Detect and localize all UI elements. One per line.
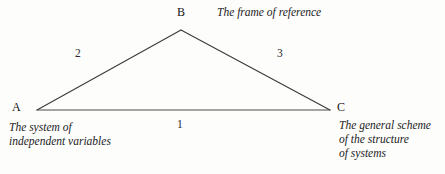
vertex-label-b: B	[177, 6, 185, 18]
figure-canvas: A B C 1 2 3 The frame of reference The s…	[0, 0, 445, 174]
caption-frame-of-reference: The frame of reference	[217, 5, 321, 19]
vertex-label-c: C	[337, 101, 345, 113]
caption-general-scheme-of-structure-of-systems: The general scheme of the structure of s…	[339, 118, 431, 160]
edge-line-b-c	[181, 30, 330, 110]
edge-label-2: 2	[75, 47, 81, 59]
edge-label-3: 3	[277, 47, 283, 59]
edge-line-a-b	[37, 30, 181, 110]
vertex-label-a: A	[12, 101, 21, 113]
edge-label-1: 1	[177, 118, 183, 130]
caption-system-of-independent-variables: The system of independent variables	[9, 120, 111, 148]
